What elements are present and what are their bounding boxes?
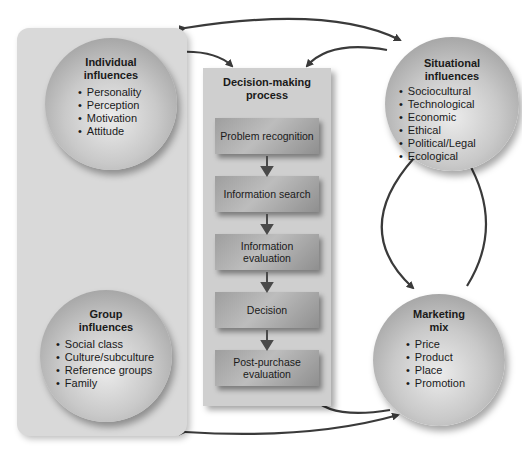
title-line: Situational — [385, 57, 519, 70]
group-influences-circle: Group influences Social class Culture/su… — [40, 290, 172, 422]
list-item: Place — [406, 364, 465, 377]
list-item: Economic — [399, 111, 476, 124]
list-item: Social class — [56, 338, 154, 351]
decision-making-process-panel: Decision-making process Problem recognit… — [203, 68, 331, 406]
list-item: Technological — [399, 98, 476, 111]
individual-influences-circle: Individual influences Personality Percep… — [45, 38, 177, 170]
list-item: Reference groups — [56, 364, 154, 377]
list-item: Motivation — [78, 112, 141, 125]
list-item: Ethical — [399, 124, 476, 137]
list-item: Political/Legal — [399, 137, 476, 150]
marketing-mix-list: Price Product Place Promotion — [406, 338, 465, 390]
title-line: influences — [45, 69, 177, 82]
title-line: Individual — [45, 56, 177, 69]
list-item: Attitude — [78, 125, 141, 138]
situational-influences-list: Sociocultural Technological Economic Eth… — [399, 85, 476, 163]
list-item: Ecological — [399, 150, 476, 163]
title-line: Marketing — [373, 308, 505, 321]
list-item: Price — [406, 338, 465, 351]
list-item: Product — [406, 351, 465, 364]
title-line: Group — [40, 308, 172, 321]
situational-influences-circle: Situational influences Sociocultural Tec… — [385, 37, 519, 171]
list-item: Culture/subculture — [56, 351, 154, 364]
group-influences-list: Social class Culture/subculture Referenc… — [56, 338, 154, 390]
list-item: Perception — [78, 99, 141, 112]
list-item: Personality — [78, 86, 141, 99]
list-item: Promotion — [406, 377, 465, 390]
title-line: mix — [373, 321, 505, 334]
marketing-mix-title: Marketing mix — [373, 308, 505, 334]
individual-influences-title: Individual influences — [45, 56, 177, 82]
list-item: Sociocultural — [399, 85, 476, 98]
marketing-mix-circle: Marketing mix Price Product Place Promot… — [373, 294, 505, 426]
group-influences-title: Group influences — [40, 308, 172, 334]
title-line: influences — [385, 70, 519, 83]
step-arrows — [203, 68, 331, 406]
situational-influences-title: Situational influences — [385, 57, 519, 83]
list-item: Family — [56, 377, 154, 390]
title-line: influences — [40, 321, 172, 334]
individual-influences-list: Personality Perception Motivation Attitu… — [78, 86, 141, 138]
